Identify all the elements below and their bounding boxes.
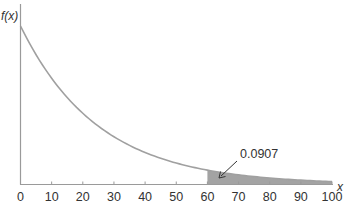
density-curve-path [21,26,333,182]
x-tick-label: 30 [107,190,121,204]
x-tick-labels: 0102030405060708090100 [17,190,342,204]
axes [20,4,333,185]
x-tick-label: 40 [138,190,152,204]
x-tick-label: 20 [76,190,90,204]
x-tick-label: 0 [17,190,24,204]
x-tick-label: 50 [169,190,183,204]
y-axis-label: f(x) [1,9,18,23]
x-tick-label: 60 [200,190,214,204]
x-tick-label: 10 [45,190,59,204]
annotation-label: 0.0907 [240,147,278,161]
x-tick-label: 90 [294,190,308,204]
x-axis-label: x [336,180,344,194]
exponential-density-chart: 0102030405060708090100 f(x) x 0.0907 [0,0,351,204]
density-curve [21,26,333,182]
x-tick-label: 80 [263,190,277,204]
x-tick-label: 70 [232,190,246,204]
